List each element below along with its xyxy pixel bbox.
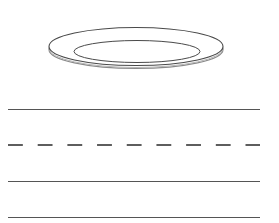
handwriting-worksheet: [0, 0, 279, 223]
plate-illustration: [0, 0, 279, 100]
dashed-midline: [8, 144, 260, 146]
top-writing-line: [8, 109, 260, 110]
bottom-writing-line: [8, 217, 260, 218]
base-writing-line: [8, 181, 260, 182]
